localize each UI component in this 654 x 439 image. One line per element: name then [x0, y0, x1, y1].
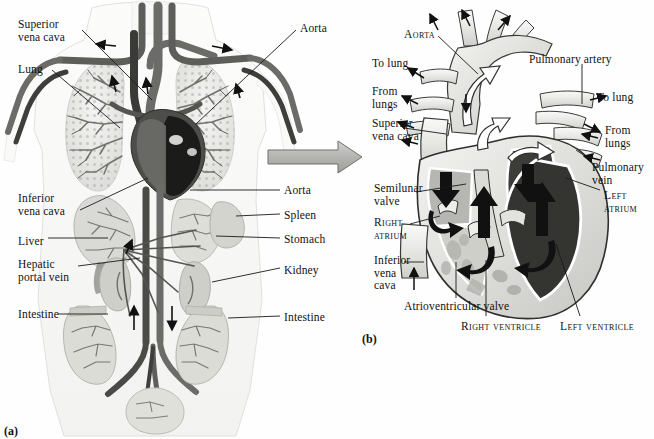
transfer-arrow [268, 141, 362, 173]
label-inferior-vena-cava: Inferior vena cava [374, 254, 410, 292]
label-semilunar-valve: Semilunar valve [374, 182, 423, 207]
lower-intestine [126, 388, 184, 434]
flow-arrows-heart [428, 164, 556, 280]
label-spleen: Spleen [284, 209, 316, 222]
intestine-right [176, 306, 228, 384]
label-liver: Liver [18, 235, 44, 248]
label-right-atrium: Right atrium [374, 216, 407, 241]
spleen [210, 202, 244, 248]
kidney-left [100, 258, 131, 311]
label-aorta-top: Aorta [300, 22, 327, 35]
label-lung: Lung [18, 63, 43, 76]
label-superior-vena-cava: Superior vena cava [18, 18, 65, 43]
vessel-direction-arrows [398, 10, 606, 290]
panel-a-tag: (a) [4, 424, 18, 439]
label-pulmonary-artery: Pulmonary artery [529, 53, 612, 66]
label-to-lung-left: To lung [372, 57, 408, 70]
abdominal-vessels [108, 186, 196, 430]
hepatic-portal-vein [123, 230, 200, 316]
figure-artwork [0, 0, 654, 439]
open-flow-arrows [463, 66, 554, 162]
label-stomach: Stomach [284, 233, 325, 246]
label-inferior-vena-cava: Inferior vena cava [18, 192, 65, 217]
label-right-ventricle: Right ventricle [461, 320, 541, 333]
label-left-ventricle: Left ventricle [560, 320, 634, 333]
label-atrioventricular-valve: Atrioventricular valve [404, 300, 509, 313]
stomach [171, 199, 220, 263]
label-from-lungs-left: From lungs [372, 85, 398, 110]
label-intestine-right: Intestine [284, 311, 325, 324]
lung-left [66, 59, 124, 191]
label-pulmonary-vein: Pulmonary vein [592, 161, 644, 186]
panel-b-tag: (b) [362, 332, 377, 347]
label-intestine-left: Intestine [18, 308, 59, 321]
body-outline [4, 2, 296, 436]
label-left-atrium: Left atrium [604, 189, 637, 214]
label-to-lung-right: To lung [597, 91, 633, 104]
label-kidney: Kidney [284, 264, 319, 277]
circulatory-system-figure: Superior vena cavaLungInferior vena cava… [0, 0, 654, 439]
heart-in-body [131, 110, 205, 201]
label-hepatic-portal-vein: Hepatic portal vein [18, 258, 69, 283]
label-from-lungs-right: From lungs [605, 124, 631, 149]
leader-lines-panel-b [404, 36, 600, 316]
label-aorta-abdominal: Aorta [284, 184, 311, 197]
liver [74, 195, 135, 294]
leader-lines-panel-a [48, 30, 296, 318]
kidney-right [179, 262, 210, 315]
flow-arrows-body [96, 44, 240, 330]
lung-right [176, 59, 234, 191]
label-superior-vena-cava: Superior vena cava [372, 117, 419, 142]
intestine-left [64, 306, 116, 384]
label-aorta: Aorta [404, 28, 435, 41]
